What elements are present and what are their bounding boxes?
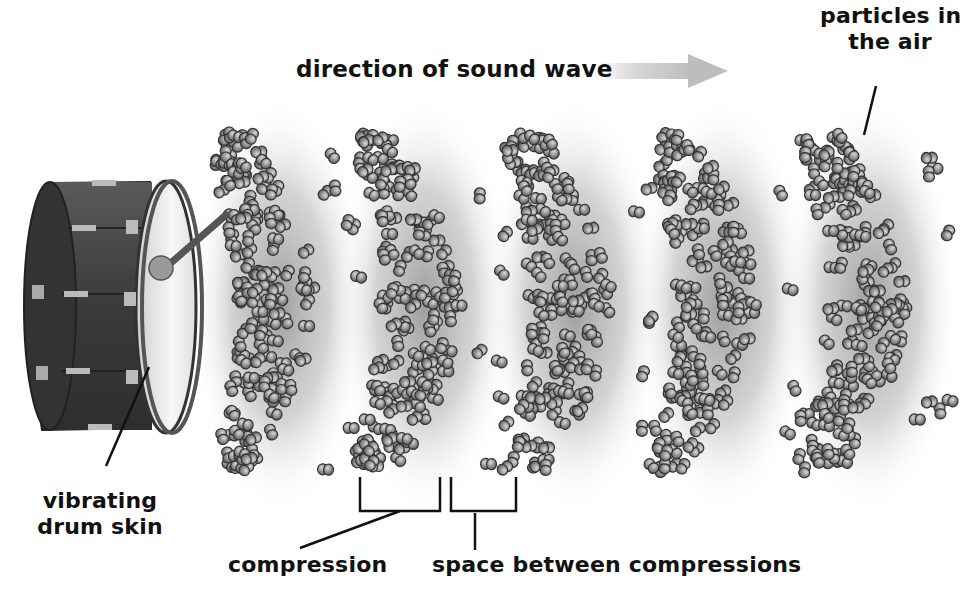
bass-drum (24, 180, 226, 433)
space-between-compressions-label: space between compressions (432, 552, 801, 578)
direction-label: direction of sound wave (296, 56, 612, 82)
particles-label-line2: the air (820, 29, 960, 55)
particles-label: particles in the air (820, 3, 960, 55)
direction-arrow (598, 54, 728, 88)
drum-skin-label-line1: vibrating (30, 488, 170, 514)
drum-skin-label: vibrating drum skin (30, 488, 170, 540)
particles-label-line1: particles in (820, 3, 960, 29)
sound-wave-diagram: direction of sound wave particles in the… (0, 0, 969, 609)
compression-label: compression (228, 552, 387, 578)
drum-skin-label-line2: drum skin (30, 514, 170, 540)
